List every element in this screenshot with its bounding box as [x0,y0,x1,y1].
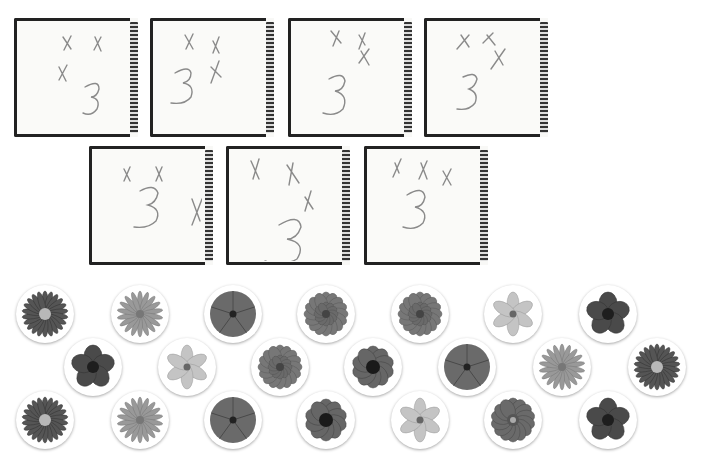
spiral-binding [480,150,488,261]
flower-sticker-lily[interactable] [484,285,542,343]
notebook-card-1 [14,18,138,137]
notebook-card-6 [226,146,350,265]
flower-sticker-zinnia[interactable] [297,285,355,343]
tally-marks [17,21,127,133]
gerbera-icon [16,391,74,449]
flower-sticker-gerbera[interactable] [16,391,74,449]
flower-sticker-daisy[interactable] [111,285,169,343]
tally-marks [153,21,263,133]
flower-sticker-pansy[interactable] [297,391,355,449]
flower-sticker-daisy[interactable] [533,338,591,396]
flower-sticker-daisy[interactable] [111,391,169,449]
zinnia-icon [297,285,355,343]
tally-marks [291,21,401,133]
spiral-binding [342,150,350,261]
pansy-icon [344,338,402,396]
notebook-card-4 [424,18,548,137]
tally-marks [427,21,537,133]
flower-sticker-zinnia[interactable] [251,338,309,396]
daisy-icon [533,338,591,396]
tally-marks [229,149,339,261]
flower-sticker-zinnia[interactable] [391,285,449,343]
gerbera-icon [628,338,686,396]
flower-sticker-gerbera[interactable] [628,338,686,396]
lily-icon [391,391,449,449]
spiral-binding [404,22,412,133]
flower-sticker-dahlia[interactable] [484,391,542,449]
petunia-icon [438,338,496,396]
flower-sticker-petunia[interactable] [204,285,262,343]
dahlia-icon [484,391,542,449]
flower-sticker-petunia[interactable] [204,391,262,449]
lily-icon [484,285,542,343]
flower-sticker-primrose[interactable] [579,391,637,449]
daisy-icon [111,391,169,449]
notebook-card-3 [288,18,412,137]
petunia-icon [204,285,262,343]
spiral-binding [130,22,138,133]
zinnia-icon [251,338,309,396]
flower-sticker-petunia[interactable] [438,338,496,396]
pansy-icon [297,391,355,449]
spiral-binding [540,22,548,133]
flower-sticker-primrose[interactable] [64,338,122,396]
lily-icon [158,338,216,396]
daisy-icon [111,285,169,343]
spiral-binding [266,22,274,133]
petunia-icon [204,391,262,449]
flower-sticker-pansy[interactable] [344,338,402,396]
notebook-card-5 [89,146,213,265]
primrose-icon [579,391,637,449]
flower-sticker-primrose[interactable] [579,285,637,343]
zinnia-icon [391,285,449,343]
gerbera-icon [16,285,74,343]
tally-marks [367,149,477,261]
flower-sticker-gerbera[interactable] [16,285,74,343]
spiral-binding [205,150,213,261]
primrose-icon [579,285,637,343]
flower-sticker-lily[interactable] [158,338,216,396]
tally-marks [92,149,202,261]
notebook-card-7 [364,146,488,265]
notebook-card-2 [150,18,274,137]
flower-sticker-lily[interactable] [391,391,449,449]
primrose-icon [64,338,122,396]
